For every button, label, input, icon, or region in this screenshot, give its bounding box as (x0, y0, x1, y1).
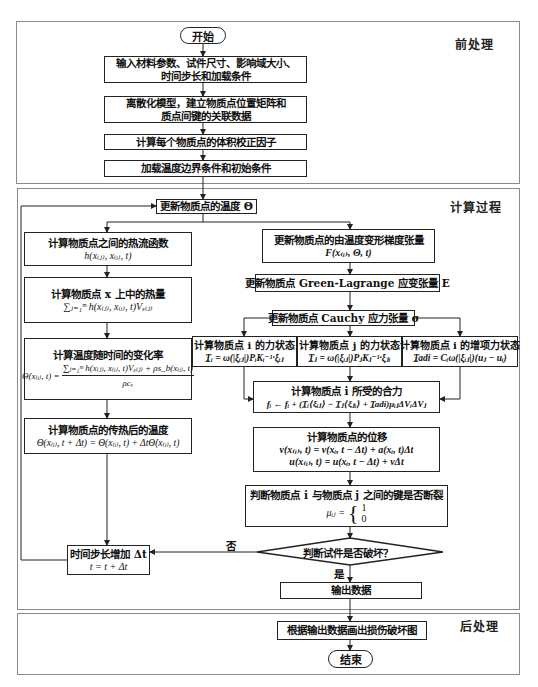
displacement-title: 计算物质点的位移 (307, 431, 387, 444)
decision-no-label: 否 (226, 538, 236, 553)
end-terminal: 结束 (328, 650, 373, 668)
heat-quantity-title: 计算物质点 x 上中的热量 (51, 288, 165, 301)
heat-flow-title: 计算物质点之间的热流函数 (48, 237, 168, 250)
resultant-force-box: 计算物质点 i 所受的合力 fᵢ ← fᵢ + (T̲ᵢ⟨ξᵢⱼ⟩ − T̲ⱼ⟨… (253, 381, 440, 413)
bond-case-broken: 0 (362, 513, 367, 524)
force-state-j-formula: T̲ⱼ = ω(|ξᵢⱼ|)PⱼKⱼ⁻¹·ξⱼᵢ (308, 352, 390, 364)
input-line-2: 时间步长和加载条件 (161, 70, 251, 83)
temperature-rate-formula: Θ̇(x₍ᵢ₎, t) = ∑ⱼ₌₁ᵐ h(x₍ⱼ₎, x₍ᵢ₎, t)Vₓ₍ⱼ… (22, 362, 194, 389)
temperature-rate-lhs: Θ̇(x₍ᵢ₎, t) = (22, 370, 60, 382)
displacement-formula-position: u(x₍ᵢ₎, t) = u(xᵢ, t − Δt) + vΔt (289, 456, 403, 468)
time-step-box: 时间步长增加 Δt t = t + Δt (67, 545, 150, 575)
temperature-rate-box: 计算温度随时间的变化率 Θ̇(x₍ᵢ₎, t) = ∑ⱼ₌₁ᵐ h(x₍ⱼ₎, … (24, 338, 192, 400)
brace-symbol: { (348, 502, 359, 524)
discretize-line-1: 离散化模型，建立物质点位置矩阵和 (126, 97, 286, 110)
time-step-title: 时间步长增加 Δt (70, 548, 147, 561)
bond-break-box: 判断物质点 i 与物质点 j 之间的键是否断裂 μᵢⱼ = { 1 0 (245, 485, 448, 527)
force-state-i-box: 计算物质点 i 的力状态 T̲ᵢ = ω(|ξᵢⱼ|)PᵢKᵢ⁻¹·ξᵢⱼ (192, 336, 297, 367)
volume-correction-box: 计算每个物质点的体积校正因子 (104, 134, 307, 150)
heat-flow-box: 计算物质点之间的热流函数 h(x₍ⱼ₎, x₍ᵢ₎, t) (24, 232, 192, 266)
resultant-force-formula: fᵢ ← fᵢ + (T̲ᵢ⟨ξᵢⱼ⟩ − T̲ⱼ⟨ξⱼᵢ⟩ + T̲adi)μ… (267, 398, 426, 410)
cauchy-stress-text: 更新物质点 Cauchy 应力张量 σ (268, 312, 420, 325)
discretize-line-2: 质点间键的关联数据 (161, 110, 251, 123)
heat-flow-formula: h(x₍ⱼ₎, x₍ᵢ₎, t) (84, 250, 131, 262)
post-heat-temperature-formula: Θ(x₍ᵢ₎, t + Δt) = Θ(x₍ᵢ₎, t) + ΔtΘ̇(x₍ᵢ₎… (37, 437, 180, 449)
flowchart-canvas: 前处理 计算过程 后处理 (0, 0, 538, 687)
update-temperature-text: 更新物质点的温度 Θ (160, 200, 253, 213)
bond-break-title: 判断物质点 i 与物质点 j 之间的键是否断裂 (250, 489, 442, 502)
heat-quantity-box: 计算物质点 x 上中的热量 ∑ⱼ₌₁ᵐ h(x₍ⱼ₎, x₍ᵢ₎, t)Vₓ₍ⱼ… (24, 277, 192, 323)
displacement-box: 计算物质点的位移 v(x₍ᵢ₎, t) = v(xᵢ, t − Δt) + a(… (253, 427, 440, 472)
discretize-model-box: 离散化模型，建立物质点位置矩阵和 质点间键的关联数据 (104, 96, 307, 123)
heat-quantity-formula: ∑ⱼ₌₁ᵐ h(x₍ⱼ₎, x₍ᵢ₎, t)Vₓ₍ⱼ₎ (63, 301, 152, 313)
cauchy-stress-box: 更新物质点 Cauchy 应力张量 σ (272, 310, 415, 326)
input-line-1: 输入材料参数、试件尺寸、影响域大小、 (116, 57, 296, 70)
post-heat-temperature-title: 计算物质点的传热后的温度 (48, 424, 168, 437)
load-bc-text: 加载温度边界条件和初始条件 (141, 162, 271, 175)
green-lagrange-text: 更新物质点 Green-Lagrange 应变张量 E (245, 277, 449, 290)
deformation-gradient-formula: F(x₍ᵢ₎, Θ, t) (325, 247, 371, 259)
input-parameters-box: 输入材料参数、试件尺寸、影响域大小、 时间步长和加载条件 (104, 56, 307, 83)
output-data-box: 输出数据 (280, 582, 422, 599)
volume-correction-text: 计算每个物质点的体积校正因子 (136, 136, 276, 149)
force-state-adi-formula: T̲adi = Cᵢω(|ξᵢⱼ|)(uⱼ − uᵢ) (413, 352, 506, 364)
force-state-adi-box: 计算物质点 i 的增项力状态 T̲adi = Cᵢω(|ξᵢⱼ|)(uⱼ − u… (402, 336, 518, 367)
temperature-rate-denominator: ρcᵥ (62, 376, 194, 389)
decision-yes-label: 是 (334, 566, 344, 581)
temperature-rate-title: 计算温度随时间的变化率 (53, 349, 163, 362)
deformation-gradient-title: 更新物质点的由温度变形梯度张量 (274, 234, 424, 247)
bond-break-formula: μᵢⱼ = { 1 0 (326, 502, 366, 524)
force-state-j-title: 计算物质点 j 的力状态 (299, 339, 400, 352)
update-temperature-box: 更新物质点的温度 Θ (156, 199, 257, 214)
displacement-formula-velocity: v(x₍ᵢ₎, t) = v(xᵢ, t − Δt) + a(xᵢ, t)Δt (280, 444, 414, 456)
force-state-j-box: 计算物质点 j 的力状态 T̲ⱼ = ω(|ξᵢⱼ|)PⱼKⱼ⁻¹·ξⱼᵢ (297, 336, 402, 367)
green-lagrange-box: 更新物质点 Green-Lagrange 应变张量 E (255, 274, 440, 292)
output-data-text: 输出数据 (331, 584, 371, 597)
bond-case-intact: 1 (362, 502, 367, 513)
deformation-gradient-box: 更新物质点的由温度变形梯度张量 F(x₍ᵢ₎, Θ, t) (262, 229, 435, 263)
decision-text: 判断试件是否破坏？ (303, 545, 393, 560)
damage-plot-box: 根据输出数据画出损伤破坏图 (277, 621, 427, 640)
load-bc-box: 加载温度边界条件和初始条件 (104, 160, 307, 177)
force-state-adi-title: 计算物质点 i 的增项力状态 (400, 339, 521, 352)
damage-plot-text: 根据输出数据画出损伤破坏图 (287, 624, 417, 637)
resultant-force-title: 计算物质点 i 所受的合力 (291, 385, 402, 398)
temperature-rate-numerator: ∑ⱼ₌₁ᵐ h(x₍ⱼ₎, x₍ᵢ₎, t)Vₓ₍ⱼ₎ + ρs_b(x₍ᵢ₎,… (62, 362, 194, 376)
force-state-i-formula: T̲ᵢ = ω(|ξᵢⱼ|)PᵢKᵢ⁻¹·ξᵢⱼ (205, 352, 283, 364)
bond-break-lhs: μᵢⱼ = (326, 507, 345, 519)
force-state-i-title: 计算物质点 i 的力状态 (194, 339, 295, 352)
time-step-formula: t = t + Δt (90, 561, 128, 573)
start-terminal: 开始 (180, 27, 226, 44)
post-heat-temperature-box: 计算物质点的传热后的温度 Θ(x₍ᵢ₎, t + Δt) = Θ(x₍ᵢ₎, t… (24, 418, 192, 454)
